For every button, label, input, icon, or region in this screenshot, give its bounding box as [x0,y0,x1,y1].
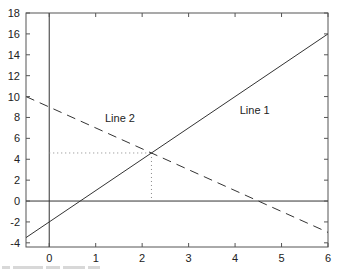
figure-caption-clipped [2,266,112,271]
x-axis-ticks: 0123456 [46,13,331,264]
x-tick-label: 3 [186,252,192,264]
plot-border [26,13,328,247]
y-tick-label: 6 [14,132,20,144]
y-tick-label: 0 [14,195,20,207]
plot-frame [26,13,328,247]
intersection-guides [49,153,151,201]
y-tick-label: 4 [14,153,20,165]
series-line-1 [26,34,328,238]
y-tick-label: 2 [14,174,20,186]
y-tick-label: 10 [8,91,20,103]
series-lines [26,34,328,238]
y-tick-label: 18 [8,7,20,19]
series-label-2: Line 2 [105,112,135,124]
line-chart: 0123456 -4-2024681012141618 Line 1Line 2 [0,0,338,271]
x-tick-label: 0 [46,252,52,264]
series-line-2 [26,97,328,233]
y-tick-label: 16 [8,28,20,40]
y-axis-ticks: -4-2024681012141618 [8,7,328,249]
x-tick-label: 4 [232,252,238,264]
y-tick-label: -4 [10,237,20,249]
y-tick-label: -2 [10,216,20,228]
x-tick-label: 5 [278,252,284,264]
line-labels: Line 1Line 2 [105,104,270,123]
y-tick-label: 14 [8,49,20,61]
x-tick-label: 6 [325,252,331,264]
series-label-1: Line 1 [240,104,270,116]
x-tick-label: 1 [93,252,99,264]
y-tick-label: 8 [14,111,20,123]
y-tick-label: 12 [8,70,20,82]
x-tick-label: 2 [139,252,145,264]
reference-lines [26,13,328,247]
